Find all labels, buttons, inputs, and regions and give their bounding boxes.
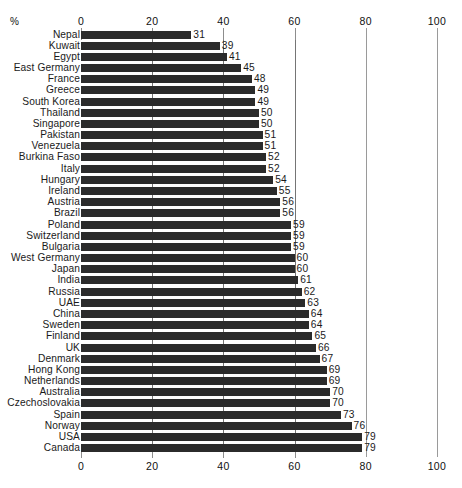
bar-value-label: 31 [193, 29, 205, 40]
bar [81, 198, 280, 206]
bar-category-label: Poland [48, 219, 80, 230]
bar-category-label: Netherlands [24, 375, 80, 386]
bar-category-label: Pakistan [40, 129, 80, 140]
horizontal-bar-chart: % 020406080100 020406080100 Nepal31Kuwai… [0, 0, 462, 488]
bar-row: Canada79 [0, 444, 462, 455]
bar-category-label: Switzerland [26, 230, 80, 241]
bar [81, 399, 330, 407]
bar [81, 120, 259, 128]
bar-category-label: Sweden [43, 319, 80, 330]
bar [81, 243, 291, 251]
bar-value-label: 45 [243, 62, 255, 73]
bar-value-label: 56 [282, 207, 294, 218]
bar-category-label: Spain [53, 409, 80, 420]
bar [81, 221, 291, 229]
bar-category-label: Brazil [54, 207, 80, 218]
bar [81, 42, 220, 50]
bar-category-label: Japan [52, 263, 80, 274]
bar-category-label: Burkina Faso [19, 151, 80, 162]
bar-value-label: 66 [318, 342, 330, 353]
bar-value-label: 55 [279, 185, 291, 196]
bar-value-label: 51 [265, 129, 277, 140]
bar-value-label: 62 [304, 286, 316, 297]
bar-value-label: 73 [343, 409, 355, 420]
bar [81, 321, 309, 329]
bar-value-label: 64 [311, 308, 323, 319]
bar-value-label: 69 [329, 375, 341, 386]
bar-value-label: 60 [297, 252, 309, 263]
bar-category-label: Greece [46, 84, 80, 95]
bar-category-label: Venezuela [32, 140, 80, 151]
bar [81, 332, 312, 340]
bar [81, 254, 295, 262]
bar-value-label: 48 [254, 73, 266, 84]
bar [81, 288, 302, 296]
bar [81, 344, 316, 352]
bar-category-label: Egypt [53, 51, 80, 62]
bar [81, 53, 227, 61]
bar-value-label: 79 [364, 442, 376, 453]
bar-category-label: Norway [45, 420, 80, 431]
bar [81, 433, 362, 441]
bar [81, 232, 291, 240]
bar [81, 444, 362, 452]
bar-category-label: Czechoslovakia [7, 397, 80, 408]
bar-category-label: Australia [39, 386, 80, 397]
bar [81, 98, 255, 106]
bar-value-label: 51 [265, 140, 277, 151]
bar-value-label: 50 [261, 107, 273, 118]
bar-value-label: 79 [364, 431, 376, 442]
bar [81, 131, 263, 139]
bar [81, 31, 191, 39]
bar [81, 310, 309, 318]
bar-value-label: 61 [300, 274, 312, 285]
bars-container: Nepal31Kuwait39Egypt41East Germany45Fran… [0, 0, 462, 488]
bar-value-label: 63 [307, 297, 319, 308]
bar [81, 276, 298, 284]
bar [81, 377, 327, 385]
bar-category-label: UAE [59, 297, 80, 308]
bar-category-label: Thailand [40, 107, 80, 118]
bar-category-label: Canada [44, 442, 80, 453]
bar-value-label: 56 [282, 196, 294, 207]
bar-category-label: India [57, 274, 80, 285]
bar-category-label: Ireland [48, 185, 80, 196]
bar [81, 176, 273, 184]
bar-value-label: 52 [268, 163, 280, 174]
bar [81, 388, 330, 396]
bar [81, 411, 341, 419]
bar-value-label: 65 [314, 330, 326, 341]
bar [81, 109, 259, 117]
bar-category-label: France [48, 73, 80, 84]
bar-category-label: China [53, 308, 80, 319]
bar [81, 142, 263, 150]
bar-category-label: Kuwait [49, 40, 80, 51]
bar [81, 165, 266, 173]
bar-category-label: Hungary [41, 174, 80, 185]
bar-value-label: 49 [257, 84, 269, 95]
bar-value-label: 76 [354, 420, 366, 431]
bar [81, 187, 277, 195]
bar [81, 64, 241, 72]
bar-value-label: 52 [268, 151, 280, 162]
bar-category-label: Bulgaria [42, 241, 80, 252]
bar [81, 355, 320, 363]
bar-category-label: Austria [48, 196, 80, 207]
bar [81, 422, 352, 430]
bar-value-label: 64 [311, 319, 323, 330]
bar-value-label: 59 [293, 241, 305, 252]
bar-value-label: 70 [332, 397, 344, 408]
bar-category-label: Singapore [33, 118, 80, 129]
bar-value-label: 59 [293, 230, 305, 241]
bar-value-label: 67 [322, 353, 334, 364]
bar-value-label: 39 [222, 40, 234, 51]
bar [81, 86, 255, 94]
bar-category-label: Hong Kong [28, 364, 80, 375]
bar-category-label: West Germany [11, 252, 80, 263]
bar-category-label: Russia [48, 286, 80, 297]
bar-value-label: 50 [261, 118, 273, 129]
bar-value-label: 49 [257, 96, 269, 107]
bar-value-label: 41 [229, 51, 241, 62]
bar-category-label: UK [66, 342, 80, 353]
bar-value-label: 70 [332, 386, 344, 397]
